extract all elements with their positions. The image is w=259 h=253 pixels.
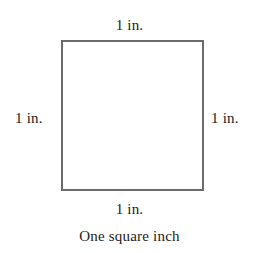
square-shape <box>61 40 204 191</box>
figure-caption: One square inch <box>0 229 259 244</box>
dimension-label-right: 1 in. <box>211 111 239 126</box>
square-inch-figure: 1 in. 1 in. 1 in. 1 in. One square inch <box>0 0 259 253</box>
dimension-label-bottom: 1 in. <box>0 202 259 217</box>
dimension-label-top: 1 in. <box>0 18 259 33</box>
dimension-label-left: 1 in. <box>15 111 43 126</box>
